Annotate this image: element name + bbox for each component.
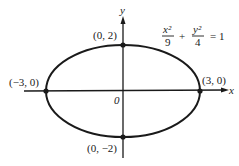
eq-plus: + <box>179 30 185 42</box>
x-axis-arrow <box>221 88 229 93</box>
eq-y-numerator: y² <box>192 23 202 35</box>
ellipse-diagram: x y 0 (0, 2) (0, −2) (−3, 0) (3, 0) x² 9… <box>0 0 239 166</box>
point-1 <box>120 134 125 139</box>
eq-equals-one: = 1 <box>210 30 224 42</box>
eq-x-numerator: x² <box>162 23 172 35</box>
point-label-left: (−3, 0) <box>9 76 39 89</box>
point-3 <box>197 88 202 93</box>
point-2 <box>43 88 48 93</box>
point-label-right: (3, 0) <box>202 74 226 87</box>
eq-x-denominator: 9 <box>165 36 171 48</box>
origin-label: 0 <box>114 94 120 106</box>
eq-y-denominator: 4 <box>195 36 201 48</box>
x-axis <box>24 90 226 91</box>
point-0 <box>120 42 125 47</box>
x-axis-label: x <box>228 84 234 96</box>
point-label-top: (0, 2) <box>93 29 117 42</box>
equation: x² 9 + y² 4 = 1 <box>162 23 224 48</box>
point-label-bottom: (0, −2) <box>87 142 117 155</box>
y-axis-label: y <box>119 4 125 16</box>
y-axis-arrow <box>121 16 126 24</box>
